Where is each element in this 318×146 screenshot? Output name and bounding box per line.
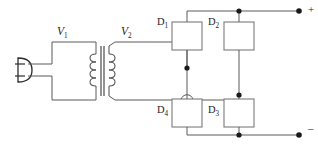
diode-d2[interactable] [224,11,254,95]
node-d1-secondary [184,65,189,70]
label-output-positive: + [308,4,314,15]
label-diode-d1: D1 [157,17,168,30]
diode-d1[interactable] [172,11,202,68]
transformer-primary-winding [52,42,96,100]
label-diode-d2: D2 [208,17,219,30]
label-diode-d4: D4 [157,105,168,118]
label-primary-voltage: V1 [57,26,68,41]
terminal-negative[interactable] [296,132,302,138]
transformer-secondary-winding [109,42,115,100]
node-top-rail [236,8,241,13]
transformer-core [101,46,104,96]
label-output-negative: – [308,123,314,134]
diode-d3[interactable] [224,95,254,135]
node-d2-d3-mid [236,92,241,97]
terminal-positive[interactable] [296,8,302,14]
ac-input-plug-icon [15,42,52,100]
label-diode-d3: D3 [208,105,219,118]
label-secondary-voltage: V2 [121,26,132,41]
diode-d4[interactable] [172,99,202,135]
circuit-diagram-canvas: V1 V2 D1 D2 D4 D3 + – [0,0,318,146]
node-bottom-rail [236,132,241,137]
